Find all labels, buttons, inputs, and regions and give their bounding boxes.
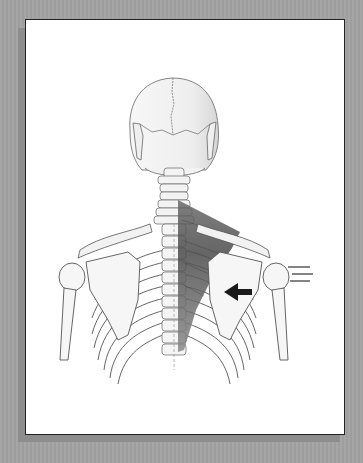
anatomy-illustration (0, 0, 363, 463)
skull (130, 78, 219, 176)
motion-lines (288, 267, 313, 281)
